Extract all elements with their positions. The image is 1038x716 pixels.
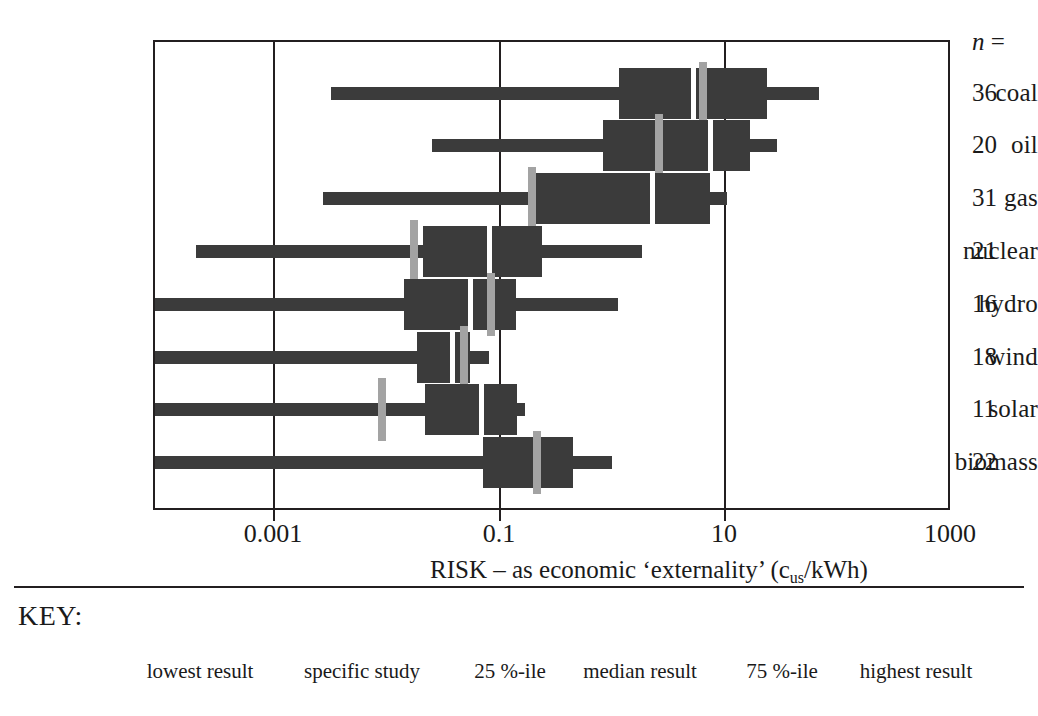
xtick-label-0.1: 0.1 xyxy=(483,519,516,549)
median-solar xyxy=(479,384,484,435)
axis-title-subscript: us xyxy=(790,569,804,586)
key-caption-median: median result xyxy=(583,659,697,684)
key-caption-study: specific study xyxy=(304,659,420,684)
study-marker-hydro xyxy=(487,273,495,336)
n-value-nuclear: 21 xyxy=(972,238,1024,264)
n-value-wind: 18 xyxy=(972,344,1024,370)
box-solar xyxy=(425,384,517,435)
median-oil xyxy=(708,120,713,171)
n-column-header: n = xyxy=(972,28,1005,56)
n-value-coal: 36 xyxy=(972,80,1024,106)
study-marker-gas xyxy=(528,167,536,230)
key-divider xyxy=(14,586,1024,588)
key-caption-highest: highest result xyxy=(860,659,973,684)
key-caption-25pctile: 25 %-ile xyxy=(474,659,546,684)
gridline-0.001 xyxy=(273,40,275,510)
box-nuclear xyxy=(423,226,542,277)
n-equals: = xyxy=(985,28,1005,55)
n-value-oil: 20 xyxy=(972,132,1024,158)
study-marker-wind xyxy=(460,326,468,389)
study-marker-coal xyxy=(699,62,707,125)
median-nuclear xyxy=(487,226,492,277)
median-wind xyxy=(450,332,455,383)
whisker-nuclear xyxy=(196,245,642,258)
box-oil xyxy=(603,120,750,171)
box-biomass xyxy=(483,437,573,488)
box-hydro xyxy=(404,279,516,330)
study-marker-solar xyxy=(378,378,386,441)
x-axis-title: RISK – as economic ‘externality’ (cus/kW… xyxy=(430,556,868,584)
xtick-label-1000: 1000 xyxy=(924,519,976,549)
xtick-label-10: 10 xyxy=(711,519,737,549)
n-value-hydro: 16 xyxy=(972,291,1024,317)
box-gas xyxy=(536,173,710,224)
median-coal xyxy=(691,68,696,119)
n-value-gas: 31 xyxy=(972,185,1024,211)
risk-box-plot-figure: n = coal 36 oil 20 gas 31 nuclear 21 hyd… xyxy=(0,0,1038,716)
key-glyph xyxy=(0,596,1038,652)
median-hydro xyxy=(468,279,473,330)
median-gas xyxy=(650,173,655,224)
axis-title-main: RISK – as economic ‘externality’ (c xyxy=(430,556,790,583)
whisker-hydro xyxy=(155,298,618,311)
n-symbol: n xyxy=(972,28,985,55)
study-marker-nuclear xyxy=(410,220,418,283)
study-marker-oil xyxy=(655,114,663,177)
study-marker-biomass xyxy=(533,431,541,494)
n-value-biomass: 22 xyxy=(972,449,1024,475)
axis-title-tail: /kWh) xyxy=(804,556,868,583)
xtick-label-0.001: 0.001 xyxy=(244,519,303,549)
key-caption-lowest: lowest result xyxy=(147,659,254,684)
n-value-solar: 11 xyxy=(972,396,1024,422)
key-caption-75pctile: 75 %-ile xyxy=(746,659,818,684)
